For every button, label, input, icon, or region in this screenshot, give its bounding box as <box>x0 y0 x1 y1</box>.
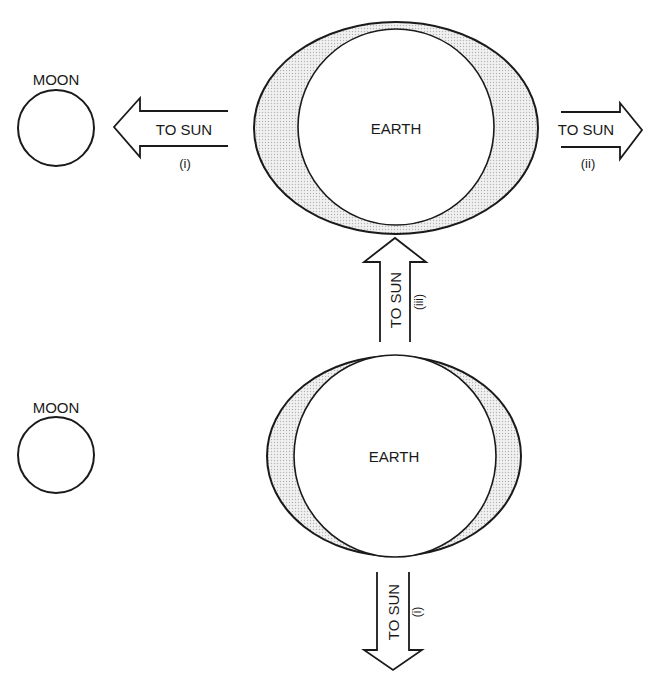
arrow-down-index: (i) <box>410 607 424 618</box>
earth-label-top: EARTH <box>371 120 422 137</box>
arrow-right-index: (ii) <box>581 156 595 171</box>
arrow-down-label: TO SUN <box>385 584 402 640</box>
arrow-up-index: (iii) <box>412 294 426 310</box>
moon-label-bottom: MOON <box>33 399 80 416</box>
moon-circle-bottom <box>18 417 94 493</box>
arrow-right-label: TO SUN <box>558 121 614 138</box>
arrow-left-index: (i) <box>179 156 191 171</box>
bottom-panel: MOON EARTH TO SUN (i) <box>18 355 521 670</box>
diagram-canvas: MOON EARTH TO SUN (i) TO SUN (ii) TO SUN… <box>0 0 653 681</box>
earth-label-bottom: EARTH <box>369 448 420 465</box>
top-panel: MOON EARTH TO SUN (i) TO SUN (ii) TO SUN… <box>18 22 642 342</box>
arrow-up-label: TO SUN <box>387 272 404 328</box>
tidal-diagram: MOON EARTH TO SUN (i) TO SUN (ii) TO SUN… <box>0 0 653 681</box>
moon-circle-top <box>18 90 94 166</box>
moon-label-top: MOON <box>33 71 80 88</box>
arrow-left-label: TO SUN <box>156 121 212 138</box>
